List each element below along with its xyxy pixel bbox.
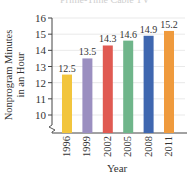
data-label-2005: 14.6 [119, 29, 137, 40]
y-tick-label: 12 [35, 77, 46, 89]
bar-1999 [82, 58, 92, 133]
x-tick-label-2002: 2002 [102, 136, 113, 157]
y-tick-label: 15 [35, 28, 47, 40]
data-label-1999: 13.5 [79, 46, 97, 57]
x-tick-label-2011: 2011 [163, 136, 174, 157]
y-tick-label: 10 [35, 109, 47, 121]
bar-1996 [62, 75, 72, 133]
bar-2005 [123, 41, 133, 133]
bar-chart: 1011121314151612.5199613.5199914.3200214… [0, 0, 193, 183]
x-tick-label-2008: 2008 [143, 136, 154, 157]
y-tick-label: 16 [35, 12, 47, 24]
axis-break-symbol [49, 125, 55, 133]
bar-2008 [144, 36, 154, 133]
y-tick-label: 14 [35, 44, 47, 56]
data-label-1996: 12.5 [58, 63, 76, 74]
data-label-2002: 14.3 [99, 33, 117, 44]
data-label-2008: 14.9 [140, 24, 158, 35]
y-tick-label: 13 [35, 61, 47, 73]
x-tick-label-1996: 1996 [61, 136, 72, 157]
data-label-2011: 15.2 [160, 19, 178, 30]
bar-2011 [164, 31, 174, 133]
bar-2002 [103, 45, 113, 133]
x-tick-label-1999: 1999 [81, 136, 92, 157]
x-tick-label-2005: 2005 [122, 136, 133, 157]
y-tick-label: 11 [35, 93, 46, 105]
